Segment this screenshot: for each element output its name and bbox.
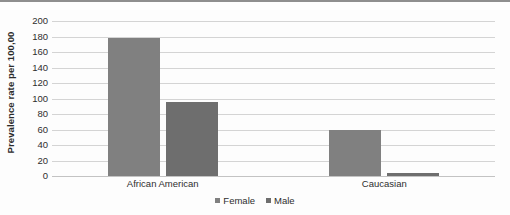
- y-axis-tick-label: 180: [4, 32, 48, 42]
- y-axis-tick-label: 80: [4, 109, 48, 119]
- bar-chart: Prevalence rate per 100,00 2001801601401…: [0, 0, 510, 215]
- x-axis-category-labels: African AmericanCaucasian: [52, 178, 495, 194]
- legend-label: Male: [274, 196, 295, 206]
- y-axis-tick-label: 60: [4, 125, 48, 135]
- x-axis-category-label: African American: [127, 178, 199, 189]
- legend-label: Female: [223, 196, 255, 206]
- bar-male-african-american: [166, 102, 218, 176]
- y-axis-tick-label: 120: [4, 78, 48, 88]
- y-axis-tick-label: 160: [4, 47, 48, 57]
- y-axis-tick-labels: 200180160140120100806040200: [0, 21, 48, 176]
- y-axis-tick-label: 100: [4, 94, 48, 104]
- y-axis-tick-label: 0: [4, 171, 48, 181]
- legend-item-male[interactable]: Male: [266, 196, 295, 206]
- y-axis-tick-label: 140: [4, 63, 48, 73]
- chart-legend: FemaleMale: [0, 196, 510, 206]
- bar-female-african-american: [108, 38, 160, 176]
- x-axis-category-label: Caucasian: [362, 178, 407, 189]
- plot-area: [52, 21, 495, 176]
- legend-swatch-icon: [215, 198, 220, 203]
- bar-male-caucasian: [387, 173, 439, 176]
- bar-female-caucasian: [329, 130, 381, 177]
- legend-item-female[interactable]: Female: [215, 196, 255, 206]
- y-axis-tick-label: 20: [4, 156, 48, 166]
- y-axis-tick-label: 200: [4, 16, 48, 26]
- y-axis-tick-label: 40: [4, 140, 48, 150]
- gridline: [52, 21, 495, 22]
- legend-swatch-icon: [266, 198, 271, 203]
- x-axis-baseline: [52, 176, 495, 177]
